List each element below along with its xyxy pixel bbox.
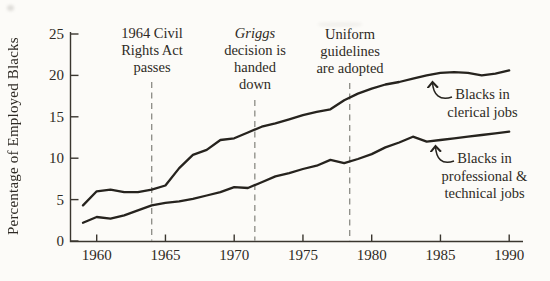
y-tick-label: 5 [57,192,65,208]
annotation-line: Griggs [200,25,310,42]
x-tick-label: 1985 [425,247,455,263]
annotation-line: guidelines [295,43,405,60]
series-label-line: technical jobs [422,185,547,203]
x-tick-label: 1960 [82,247,112,263]
annotation-civil-rights-act: 1964 Civil Rights Act passes [97,25,207,76]
annotation-griggs-decision: Griggs decision is handed down [200,25,310,93]
x-tick-label: 1980 [357,247,387,263]
annotation-line: handed [200,59,310,76]
y-tick-label: 0 [57,233,65,249]
annotation-line: Uniform [295,26,405,43]
series-label-line: Blacks in [430,86,535,104]
series-label-professional: Blacks in professional & technical jobs [422,150,547,203]
y-tick-label: 15 [49,109,64,125]
series-label-clerical: Blacks in clerical jobs [430,86,535,121]
annotation-line: Rights Act [97,42,207,59]
annotation-line: passes [97,59,207,76]
x-tick-label: 1990 [494,247,524,263]
x-tick-label: 1965 [150,247,180,263]
annotation-line: are adopted [295,60,405,77]
y-tick-label: 25 [49,26,64,42]
annotation-uniform-guidelines: Uniform guidelines are adopted [295,26,405,77]
annotation-line: decision is [200,42,310,59]
series-label-line: clerical jobs [430,104,535,122]
y-tick-label: 10 [49,150,64,166]
x-tick-label: 1975 [288,247,318,263]
figure-page: Percentage of Employed Blacks 0510152025… [0,0,550,281]
event-dashed-lines [152,82,350,241]
series-label-line: professional & [422,168,547,186]
y-tick-label: 20 [49,67,64,83]
annotation-line: down [200,76,310,93]
series-label-line: Blacks in [422,150,547,168]
annotation-line: 1964 Civil [97,25,207,42]
x-tick-label: 1970 [219,247,249,263]
